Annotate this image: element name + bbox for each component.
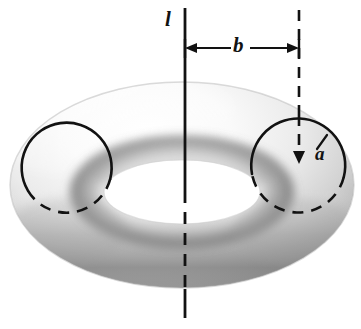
torus-figure: l b a xyxy=(0,0,361,329)
axis-label: l xyxy=(165,9,171,30)
major-radius-label: b xyxy=(233,35,244,56)
torus-hole-upper-shade xyxy=(86,142,278,194)
minor-radius-label: a xyxy=(315,144,325,163)
dimension-arrowhead-right xyxy=(287,43,299,53)
torus-illustration xyxy=(0,0,361,329)
torus-left-lobe-shade xyxy=(6,198,126,266)
torus-right-lobe-shade xyxy=(234,198,358,266)
torus-body xyxy=(0,64,358,288)
dimension-arrowhead-left xyxy=(185,43,197,53)
